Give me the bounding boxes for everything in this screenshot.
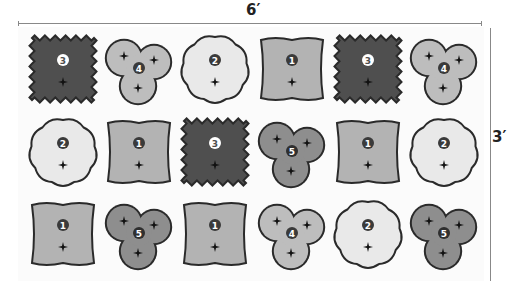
plant-cell-type-2: 2 xyxy=(178,30,252,108)
plant-cell-type-2: 2 xyxy=(331,195,405,273)
plant-cell-type-5: 5 xyxy=(407,195,481,273)
plant-number-badge: 2 xyxy=(209,54,221,66)
plant-number-badge: 4 xyxy=(286,227,298,239)
plant-cell-type-1: 1 xyxy=(102,113,176,191)
plant-cell-type-1: 1 xyxy=(255,30,329,108)
plant-cell-type-3: 3 xyxy=(331,30,405,108)
svg-text:2: 2 xyxy=(365,221,371,231)
plant-cell-type-4: 4 xyxy=(407,30,481,108)
square-plant-icon: 1 xyxy=(178,195,252,273)
svg-text:5: 5 xyxy=(441,229,447,239)
width-dimension-line xyxy=(18,23,482,24)
wavy-square-plant-icon: 3 xyxy=(331,30,405,108)
trefoil-plant-icon: 4 xyxy=(102,30,176,108)
plant-cell-type-1: 1 xyxy=(331,113,405,191)
plant-cell-type-4: 4 xyxy=(255,195,329,273)
plant-number-badge: 1 xyxy=(209,219,221,231)
svg-text:1: 1 xyxy=(60,221,66,231)
plant-number-badge: 1 xyxy=(57,219,69,231)
svg-text:5: 5 xyxy=(289,147,295,157)
plant-cell-type-2: 2 xyxy=(26,113,100,191)
plant-number-badge: 5 xyxy=(286,145,298,157)
flower-plant-icon: 2 xyxy=(178,30,252,108)
svg-text:1: 1 xyxy=(365,139,371,149)
trefoil-plant-icon: 4 xyxy=(407,30,481,108)
svg-text:2: 2 xyxy=(441,139,447,149)
plant-number-badge: 3 xyxy=(209,137,221,149)
plant-number-badge: 4 xyxy=(438,62,450,74)
svg-text:4: 4 xyxy=(441,64,447,74)
wavy-square-plant-icon: 3 xyxy=(178,113,252,191)
svg-text:5: 5 xyxy=(136,229,142,239)
height-dimension-label: 3′ xyxy=(492,128,506,146)
svg-text:1: 1 xyxy=(136,139,142,149)
plant-number-badge: 3 xyxy=(57,54,69,66)
plant-number-badge: 1 xyxy=(362,137,374,149)
square-plant-icon: 1 xyxy=(102,113,176,191)
plant-number-badge: 5 xyxy=(438,227,450,239)
svg-text:3: 3 xyxy=(365,56,371,66)
wavy-square-plant-icon: 3 xyxy=(26,30,100,108)
square-plant-icon: 1 xyxy=(331,113,405,191)
svg-text:4: 4 xyxy=(136,64,142,74)
flower-plant-icon: 2 xyxy=(407,113,481,191)
svg-text:2: 2 xyxy=(212,56,218,66)
plant-number-badge: 4 xyxy=(133,62,145,74)
svg-text:1: 1 xyxy=(289,56,295,66)
plant-cell-type-5: 5 xyxy=(255,113,329,191)
plant-cell-type-2: 2 xyxy=(407,113,481,191)
plant-number-badge: 2 xyxy=(438,137,450,149)
trefoil-plant-icon: 4 xyxy=(255,195,329,273)
square-plant-icon: 1 xyxy=(255,30,329,108)
plant-number-badge: 3 xyxy=(362,54,374,66)
svg-text:3: 3 xyxy=(60,56,66,66)
flower-plant-icon: 2 xyxy=(331,195,405,273)
planting-plan: 342134213512151425 xyxy=(18,27,484,281)
scalloped-trefoil-plant-icon: 5 xyxy=(255,113,329,191)
svg-text:2: 2 xyxy=(60,139,66,149)
plant-number-badge: 2 xyxy=(362,219,374,231)
height-dimension-line xyxy=(490,28,491,281)
plant-number-badge: 2 xyxy=(57,137,69,149)
scalloped-trefoil-plant-icon: 5 xyxy=(407,195,481,273)
svg-text:1: 1 xyxy=(212,221,218,231)
plant-cell-type-5: 5 xyxy=(102,195,176,273)
plant-cell-type-3: 3 xyxy=(178,113,252,191)
plant-number-badge: 1 xyxy=(286,54,298,66)
plant-cell-type-3: 3 xyxy=(26,30,100,108)
flower-plant-icon: 2 xyxy=(26,113,100,191)
plant-number-badge: 1 xyxy=(133,137,145,149)
plant-cell-type-1: 1 xyxy=(26,195,100,273)
svg-text:4: 4 xyxy=(289,229,295,239)
plant-number-badge: 5 xyxy=(133,227,145,239)
plant-cell-type-4: 4 xyxy=(102,30,176,108)
width-dimension-label: 6′ xyxy=(246,1,260,19)
plant-cell-type-1: 1 xyxy=(178,195,252,273)
square-plant-icon: 1 xyxy=(26,195,100,273)
scalloped-trefoil-plant-icon: 5 xyxy=(102,195,176,273)
svg-text:3: 3 xyxy=(212,139,218,149)
